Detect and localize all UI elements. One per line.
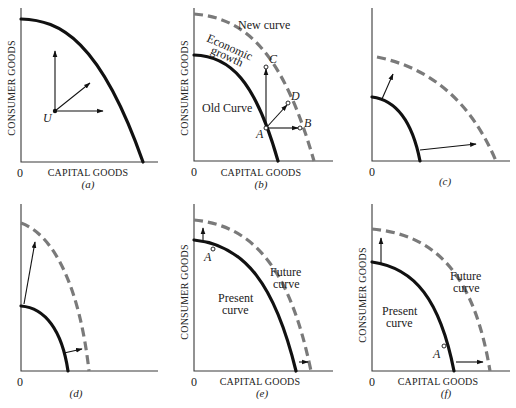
panel-e-future-label-2: curve	[273, 277, 300, 291]
panel-b-point-a-label: A	[255, 127, 264, 141]
panel-f-point-a	[442, 344, 446, 348]
panel-b-x-axis-label: CAPITAL GOODS	[221, 167, 302, 178]
panel-d-origin-label: 0	[17, 375, 23, 389]
panel-a: U CONSUMER GOODS CAPITAL GOODS 0 (a)	[6, 8, 158, 191]
panel-a-x-axis-label: CAPITAL GOODS	[48, 167, 129, 178]
panel-d-present-curve	[21, 306, 68, 371]
panel-e-present-label-2: curve	[222, 303, 249, 317]
panel-f-present-label-2: curve	[386, 316, 413, 330]
panel-b-point-b	[298, 126, 302, 130]
panel-b-point-b-label: B	[304, 116, 312, 130]
panel-b-y-axis-label: CONSUMER GOODS	[179, 40, 190, 135]
panel-e-x-axis-label: CAPITAL GOODS	[220, 376, 301, 387]
panel-f-point-a-label: A	[432, 347, 441, 361]
panel-e: A Future curve Present curve CONSUMER GO…	[179, 204, 333, 400]
panel-a-y-axis-label: CONSUMER GOODS	[6, 40, 17, 135]
panel-e-point-a	[211, 247, 215, 251]
panel-b-point-d	[286, 101, 290, 105]
panel-f-axes	[372, 204, 510, 371]
panel-d-axes	[21, 204, 158, 371]
panel-b-origin-label: 0	[191, 165, 197, 179]
panel-b-point-a	[264, 126, 268, 130]
panel-f-caption: (f)	[441, 387, 452, 400]
panel-a-point-u-label: U	[43, 111, 53, 125]
panel-a-axes	[21, 8, 158, 162]
panel-b-point-c	[264, 65, 268, 69]
panel-a-origin-label: 0	[17, 166, 23, 180]
panel-c-present-curve	[372, 97, 420, 161]
panel-c-origin-label: 0	[369, 165, 375, 179]
panel-a-caption: (a)	[82, 178, 95, 191]
panel-b-arrow-to-d-icon	[266, 105, 287, 128]
panel-b: A B C D New curve Economic growth Old Cu…	[179, 8, 333, 191]
panel-e-y-axis-label: CONSUMER GOODS	[179, 244, 190, 339]
panel-a-arrow-diagonal-icon	[55, 83, 90, 111]
panel-c: 0 (c)	[369, 8, 510, 188]
panel-e-point-a-label: A	[203, 250, 212, 264]
panel-e-origin-label: 0	[191, 375, 197, 389]
panel-d: 0 (d)	[17, 204, 158, 400]
panel-d-arrow-right-icon	[64, 349, 82, 353]
panel-f-future-label-2: curve	[453, 281, 480, 295]
panel-c-arrow-up-icon	[382, 74, 393, 99]
panel-b-point-d-label: D	[290, 89, 300, 103]
panel-e-caption: (e)	[256, 387, 269, 400]
panel-f-y-axis-label: CONSUMER GOODS	[357, 247, 368, 342]
panel-f-x-axis-label: CAPITAL GOODS	[398, 376, 479, 387]
panel-d-future-curve	[21, 223, 89, 371]
ppf-figure: U CONSUMER GOODS CAPITAL GOODS 0 (a) A B…	[0, 0, 516, 408]
panel-f-origin-label: 0	[369, 375, 375, 389]
panel-d-caption: (d)	[70, 387, 83, 400]
panel-b-old-curve-label: Old Curve	[202, 101, 252, 115]
panel-d-arrow-up-icon	[24, 242, 35, 304]
panel-c-arrow-right-icon	[420, 144, 476, 150]
panel-b-caption: (b)	[255, 178, 268, 191]
panel-b-new-curve-label: New curve	[238, 18, 290, 32]
panel-f: A Future curve Present curve CONSUMER GO…	[357, 204, 510, 400]
panel-c-caption: (c)	[439, 175, 452, 188]
panel-b-point-c-label: C	[269, 52, 278, 66]
panel-a-frontier-curve	[21, 19, 143, 162]
